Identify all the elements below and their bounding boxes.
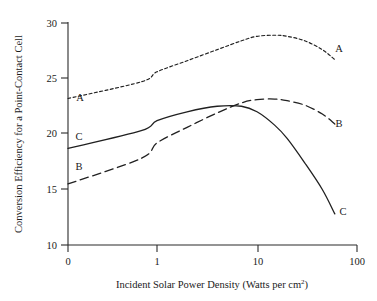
series-curve-b <box>68 99 335 184</box>
curve-label-b-left: B <box>75 161 82 172</box>
chart-figure: 30 25 20 15 10 0 1 10 100 A C B A B C Co… <box>0 0 377 301</box>
x-tick-label-1: 1 <box>154 256 159 267</box>
y-tick-label-25: 25 <box>47 73 58 84</box>
y-tick-label-10: 10 <box>47 240 58 251</box>
line-chart-plot: 30 25 20 15 10 0 1 10 100 A C B A B C Co… <box>0 0 377 301</box>
curve-label-c-right: C <box>339 206 346 217</box>
y-axis-title: Conversion Efficiency for a Point-Contac… <box>13 35 24 233</box>
y-tick-label-15: 15 <box>47 184 58 195</box>
curve-label-a-left: A <box>76 92 84 103</box>
series-curve-c <box>68 106 335 214</box>
y-tick-label-20: 20 <box>47 128 58 139</box>
x-tick-label-100: 100 <box>349 256 365 267</box>
x-tick-label-10: 10 <box>253 256 264 267</box>
curve-label-b-right: B <box>335 118 342 129</box>
x-axis-title-tail: ) <box>305 279 309 291</box>
x-axis-title: Incident Solar Power Density (Watts per … <box>116 278 309 291</box>
curve-label-a-right: A <box>335 43 343 54</box>
series-curve-a <box>68 35 335 98</box>
curve-label-c-left: C <box>75 131 82 142</box>
x-axis-title-main: Incident Solar Power Density (Watts per … <box>116 279 301 291</box>
x-tick-label-0: 0 <box>65 256 70 267</box>
y-tick-label-30: 30 <box>47 18 58 29</box>
